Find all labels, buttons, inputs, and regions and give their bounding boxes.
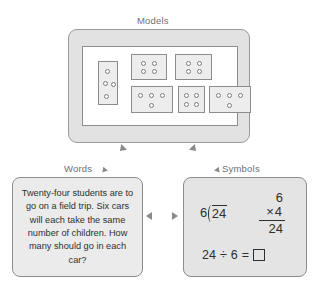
dot bbox=[105, 69, 110, 74]
arrow-to-symbols-icon bbox=[172, 212, 178, 220]
multiplication-product: 24 bbox=[259, 222, 285, 236]
dot-card-1 bbox=[98, 61, 118, 105]
words-caption: Words bbox=[64, 163, 92, 174]
dot bbox=[186, 61, 191, 66]
long-division-notation: 6 24 bbox=[200, 205, 227, 222]
dot bbox=[227, 93, 232, 98]
dot-card-6 bbox=[209, 86, 251, 113]
dot bbox=[194, 102, 199, 107]
dot bbox=[184, 93, 189, 98]
dot-card-4 bbox=[131, 86, 173, 113]
arrow-models-to-symbols-icon bbox=[189, 144, 199, 154]
dot bbox=[103, 81, 108, 86]
multiplier: 4 bbox=[275, 204, 283, 219]
dot bbox=[194, 93, 199, 98]
words-panel: Twenty-four students are to go on a fiel… bbox=[12, 177, 143, 277]
multiplication-operator: × bbox=[266, 204, 275, 219]
long-division-dividend: 24 bbox=[212, 205, 227, 222]
words-caption-pointer-icon bbox=[100, 167, 108, 175]
dot-card-3 bbox=[175, 54, 212, 80]
dot bbox=[186, 69, 191, 74]
dot bbox=[197, 61, 202, 66]
dot bbox=[149, 93, 154, 98]
symbols-caption: Symbols bbox=[222, 163, 260, 174]
models-inner-panel bbox=[82, 46, 238, 126]
dot bbox=[152, 69, 157, 74]
equation-equals-sign: = bbox=[242, 248, 249, 262]
dot bbox=[227, 103, 232, 108]
multiplication-notation: 6 ×4 24 bbox=[259, 191, 285, 236]
models-caption: Models bbox=[137, 15, 169, 26]
symbols-panel: 6 24 6 ×4 24 24 ÷ 6 = bbox=[183, 177, 307, 277]
dot bbox=[149, 103, 154, 108]
arrow-models-to-words-icon bbox=[117, 144, 127, 154]
division-equation: 24 ÷ 6 = bbox=[202, 248, 265, 262]
dot bbox=[184, 102, 189, 107]
dot bbox=[138, 93, 143, 98]
diagram-canvas: Models bbox=[0, 0, 319, 289]
equation-divisor: 6 bbox=[231, 248, 238, 262]
dot bbox=[238, 93, 243, 98]
dot bbox=[160, 93, 165, 98]
dot bbox=[141, 61, 146, 66]
dot-card-2 bbox=[131, 54, 167, 80]
dot bbox=[216, 93, 221, 98]
dot bbox=[104, 94, 109, 99]
equation-division-operator: ÷ bbox=[220, 248, 227, 262]
dot bbox=[141, 69, 146, 74]
dot-card-5 bbox=[178, 86, 205, 113]
equation-dividend: 24 bbox=[202, 248, 216, 262]
dot bbox=[197, 69, 202, 74]
equation-answer-box[interactable] bbox=[253, 249, 265, 261]
arrow-to-words-icon bbox=[146, 212, 152, 220]
word-problem-text: Twenty-four students are to go on a fiel… bbox=[19, 187, 136, 267]
multiplier-row: ×4 bbox=[259, 205, 285, 219]
multiplicand: 6 bbox=[259, 191, 285, 205]
dot bbox=[111, 82, 116, 87]
dot bbox=[152, 61, 157, 66]
long-division-divisor: 6 bbox=[200, 205, 207, 222]
symbols-caption-pointer-icon bbox=[214, 167, 222, 175]
models-panel bbox=[68, 29, 250, 143]
